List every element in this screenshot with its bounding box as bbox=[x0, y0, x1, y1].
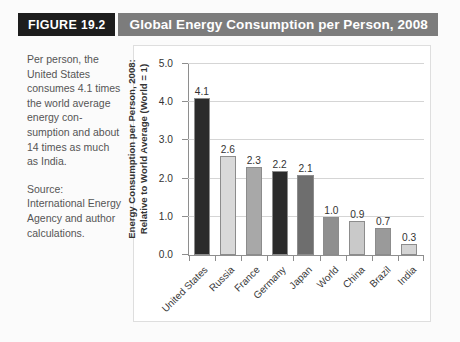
bar: 0.9 bbox=[349, 221, 365, 255]
y-tick: 1.0 bbox=[182, 216, 188, 217]
bar: 0.3 bbox=[401, 244, 417, 255]
bar-value-label: 0.7 bbox=[376, 216, 390, 227]
bar-value-label: 2.2 bbox=[273, 159, 287, 170]
y-tick: 4.0 bbox=[182, 101, 188, 102]
x-tick bbox=[293, 256, 319, 261]
x-tick-label: Brazil bbox=[367, 264, 392, 289]
bar-slot: 2.2 bbox=[267, 64, 293, 255]
y-tick-label: 5.0 bbox=[159, 58, 173, 69]
caption-source: Source: International Energy Agency and … bbox=[27, 182, 123, 240]
y-tick-label: 2.0 bbox=[159, 172, 173, 183]
x-tick bbox=[320, 256, 346, 261]
y-tick-label: 4.0 bbox=[159, 96, 173, 107]
x-tick bbox=[189, 256, 215, 261]
x-tick bbox=[241, 256, 267, 261]
x-tick bbox=[267, 256, 293, 261]
y-tick-label: 0.0 bbox=[159, 249, 173, 260]
x-tick bbox=[346, 256, 372, 261]
bar: 2.2 bbox=[272, 171, 288, 255]
bar-slot: 0.9 bbox=[344, 64, 370, 255]
x-label-slot: Brazil bbox=[372, 262, 398, 320]
bar: 0.7 bbox=[375, 228, 391, 255]
caption-column: Per person, the United States consumes 4… bbox=[27, 52, 123, 240]
bar: 2.3 bbox=[246, 167, 262, 255]
chart-panel: Energy Consumption per Person, 2008: Rel… bbox=[133, 45, 431, 322]
plot-area: 0.01.02.03.04.05.0 4.12.62.32.22.11.00.9… bbox=[188, 64, 422, 255]
y-tick-label: 1.0 bbox=[159, 210, 173, 221]
bar-value-label: 0.3 bbox=[402, 232, 416, 243]
x-tick-label: India bbox=[396, 264, 419, 287]
x-label-slot: United States bbox=[189, 262, 215, 320]
bar-value-label: 2.3 bbox=[247, 155, 261, 166]
x-axis-ticks bbox=[189, 256, 424, 261]
x-tick bbox=[215, 256, 241, 261]
figure-number: 19.2 bbox=[81, 18, 106, 32]
bar-slot: 0.3 bbox=[396, 64, 422, 255]
bar: 2.6 bbox=[220, 156, 236, 255]
caption-body: Per person, the United States consumes 4… bbox=[27, 52, 123, 169]
bar-slot: 2.3 bbox=[241, 64, 267, 255]
x-label-slot: India bbox=[398, 262, 424, 320]
x-label-slot: Japan bbox=[293, 262, 319, 320]
x-tick bbox=[372, 256, 398, 261]
x-label-slot: Germany bbox=[267, 262, 293, 320]
x-label-slot: World bbox=[320, 262, 346, 320]
bar-value-label: 0.9 bbox=[350, 209, 364, 220]
bar-series: 4.12.62.32.22.11.00.90.70.3 bbox=[189, 64, 422, 255]
figure-word: FIGURE bbox=[28, 18, 77, 32]
bar: 4.1 bbox=[194, 98, 210, 255]
y-axis-title: Energy Consumption per Person, 2008: Rel… bbox=[126, 44, 160, 254]
y-tick: 2.0 bbox=[182, 178, 188, 179]
bar-slot: 1.0 bbox=[318, 64, 344, 255]
bar-slot: 2.6 bbox=[215, 64, 241, 255]
bar: 1.0 bbox=[323, 217, 339, 255]
x-axis-labels: United StatesRussiaFranceGermanyJapanWor… bbox=[189, 262, 424, 320]
bar-value-label: 1.0 bbox=[324, 205, 338, 216]
bar-value-label: 2.6 bbox=[221, 144, 235, 155]
bar: 2.1 bbox=[297, 175, 313, 255]
y-tick-label: 3.0 bbox=[159, 134, 173, 145]
figure-container: FIGURE 19.2 Global Energy Consumption pe… bbox=[0, 0, 460, 342]
y-tick: 5.0 bbox=[182, 63, 188, 64]
x-label-slot: China bbox=[346, 262, 372, 320]
x-tick-label: United States bbox=[160, 264, 210, 314]
x-tick bbox=[398, 256, 424, 261]
bar-slot: 0.7 bbox=[370, 64, 396, 255]
bar-value-label: 4.1 bbox=[195, 86, 209, 97]
y-tick: 3.0 bbox=[182, 139, 188, 140]
bar-value-label: 2.1 bbox=[298, 163, 312, 174]
bar-slot: 2.1 bbox=[293, 64, 319, 255]
figure-title: Global Energy Consumption per Person, 20… bbox=[118, 13, 438, 36]
figure-number-badge: FIGURE 19.2 bbox=[18, 13, 115, 36]
figure-header: FIGURE 19.2 Global Energy Consumption pe… bbox=[18, 13, 438, 36]
bar-slot: 4.1 bbox=[189, 64, 215, 255]
